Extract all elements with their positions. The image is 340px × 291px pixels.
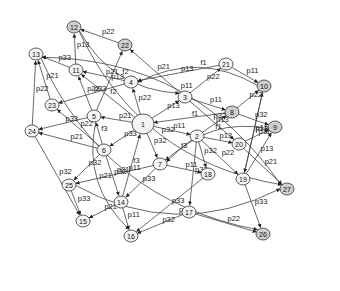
- node-label: 6: [102, 147, 106, 154]
- edge-label: f1: [200, 58, 206, 67]
- edge-label: p11: [247, 66, 259, 75]
- edge-label: p33: [58, 53, 71, 62]
- edge-label: p21: [119, 111, 132, 120]
- edge-label: f3: [101, 124, 107, 133]
- node-1: 1: [132, 114, 154, 134]
- node-label: 14: [117, 199, 125, 206]
- edge-10-4: [138, 67, 258, 85]
- node-13: 13: [29, 48, 43, 60]
- edge-label: p13: [261, 144, 274, 153]
- node-18: 18: [201, 168, 215, 180]
- node-4: 4: [124, 76, 138, 88]
- node-27: 27: [280, 183, 294, 195]
- node-label: 10: [260, 83, 268, 90]
- edge-label: p33: [78, 194, 91, 203]
- edge-label: p21: [157, 62, 170, 71]
- node-label: 1: [141, 121, 145, 128]
- node-25: 25: [62, 179, 76, 191]
- edge-label: p33: [255, 197, 268, 206]
- node-label: 11: [72, 67, 79, 74]
- node-label: 3: [183, 94, 187, 101]
- node-label: 19: [239, 176, 247, 183]
- node-label: 4: [129, 79, 133, 86]
- node-14: 14: [114, 196, 128, 208]
- node-21: 21: [219, 58, 233, 70]
- node-label: 22: [121, 42, 129, 49]
- edge-label: f1: [215, 122, 221, 131]
- node-17: 17: [182, 206, 196, 218]
- node-label: 24: [28, 128, 36, 135]
- node-11: 11: [69, 64, 83, 76]
- edge-label: p13: [220, 131, 233, 140]
- node-label: 20: [235, 141, 243, 148]
- node-label: 2: [195, 133, 199, 140]
- edge-label: p11: [181, 81, 193, 90]
- edge-17-16: [137, 214, 183, 233]
- node-3: 3: [178, 91, 192, 103]
- edge-label: f3: [181, 141, 187, 150]
- edge-2-7: [166, 140, 193, 160]
- graph-canvas: p21p22f2p13p11p33p32f3p22p11p21p32f1p13p…: [0, 0, 340, 291]
- edge-label: p21: [265, 157, 278, 166]
- edge-label: p32: [154, 136, 167, 145]
- edge-label: p22: [250, 90, 263, 99]
- edge-label: p21: [99, 171, 112, 180]
- node-label: 27: [283, 186, 291, 193]
- node-6: 6: [97, 144, 111, 156]
- node-label: 17: [185, 209, 193, 216]
- edge-6-24: [39, 133, 98, 149]
- edge-label: p11: [129, 163, 141, 172]
- edge-label: p21: [46, 71, 59, 80]
- edge-label: p32: [162, 125, 175, 134]
- node-19: 19: [236, 173, 250, 185]
- edge-label: p11: [210, 95, 222, 104]
- node-12: 12: [67, 21, 81, 33]
- node-7: 7: [153, 158, 167, 170]
- node-label: 5: [92, 113, 96, 120]
- edge-label-layer: p21p22f2p13p11p33p32f3p22p11p21p32f1p13p…: [36, 27, 277, 224]
- edge-label: p13: [181, 64, 194, 73]
- node-label: 7: [158, 161, 162, 168]
- node-15: 15: [76, 215, 90, 227]
- edge-label: p32: [59, 167, 72, 176]
- node-label: 8: [230, 109, 234, 116]
- node-23: 23: [45, 99, 59, 111]
- node-label: 26: [259, 231, 267, 238]
- node-9: 9: [268, 121, 282, 133]
- node-24: 24: [25, 125, 39, 137]
- edge-label: p11: [173, 121, 185, 130]
- node-label: 23: [48, 102, 56, 109]
- node-label: 16: [127, 233, 135, 240]
- edge-label: p22: [207, 72, 220, 81]
- node-label: 25: [65, 182, 73, 189]
- node-2: 2: [190, 130, 204, 142]
- edge-label: p13: [167, 101, 180, 110]
- edge-label: p22: [36, 84, 49, 93]
- node-label: 21: [222, 61, 230, 68]
- edge-label: p33: [172, 196, 185, 205]
- edge-label: p33: [65, 114, 78, 123]
- edge-12-27: [79, 31, 282, 185]
- edge-17-26: [195, 214, 257, 232]
- node-label: 13: [32, 51, 40, 58]
- edge-label: p32: [162, 215, 175, 224]
- edge-3-22: [130, 50, 180, 93]
- edge-label: p33: [143, 174, 156, 183]
- edge-label: p21: [70, 132, 83, 141]
- edge-label: p11: [128, 210, 140, 219]
- node-label: 12: [70, 24, 78, 31]
- node-8: 8: [225, 106, 239, 118]
- edge-label: p22: [222, 148, 235, 157]
- edge-label: p13: [77, 40, 90, 49]
- node-22: 22: [118, 39, 132, 51]
- edge-label: p32: [204, 146, 217, 155]
- node-label: 15: [79, 218, 87, 225]
- edge-label: p11: [256, 123, 268, 132]
- node-16: 16: [124, 230, 138, 242]
- edge-label: f2: [122, 67, 128, 76]
- edge-label: f1: [192, 109, 198, 118]
- edge-label: p22: [102, 27, 115, 36]
- node-10: 10: [257, 80, 271, 92]
- edge-24-15: [35, 136, 80, 215]
- edge-label: p22: [228, 214, 241, 223]
